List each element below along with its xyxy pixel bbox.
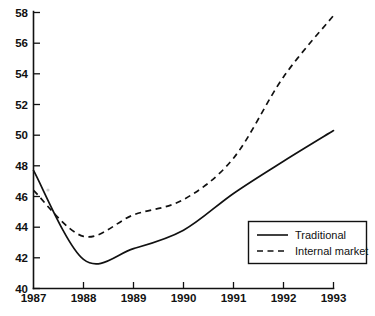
- chart-canvas: 40 42 44 46 48 50 52 54 56 58 1987 1988 …: [0, 0, 375, 316]
- x-tick-label: 1987: [21, 292, 47, 304]
- legend-label-internal-market: Internal market: [295, 245, 368, 257]
- y-tick-label: 56: [15, 37, 28, 49]
- legend-label-traditional: Traditional: [295, 229, 346, 241]
- scan-artifact: [46, 188, 49, 191]
- y-tick-label: 58: [15, 7, 28, 19]
- chart-background: [0, 0, 375, 316]
- y-tick-label: 50: [15, 129, 28, 141]
- y-tick-label: 52: [15, 99, 28, 111]
- chart-legend: Traditional Internal market: [249, 222, 369, 264]
- x-tick-label: 1993: [321, 292, 347, 304]
- legend-box: [249, 222, 367, 264]
- x-tick-label: 1991: [221, 292, 247, 304]
- y-tick-label: 54: [15, 68, 28, 80]
- x-tick-label: 1992: [271, 292, 297, 304]
- y-tick-label: 46: [15, 191, 28, 203]
- x-tick-label: 1989: [121, 292, 147, 304]
- x-tick-label: 1988: [71, 292, 97, 304]
- line-chart: 40 42 44 46 48 50 52 54 56 58 1987 1988 …: [0, 0, 375, 316]
- y-tick-label: 44: [15, 221, 28, 233]
- y-tick-label: 42: [15, 252, 28, 264]
- x-tick-label: 1990: [171, 292, 197, 304]
- y-tick-label: 48: [15, 160, 28, 172]
